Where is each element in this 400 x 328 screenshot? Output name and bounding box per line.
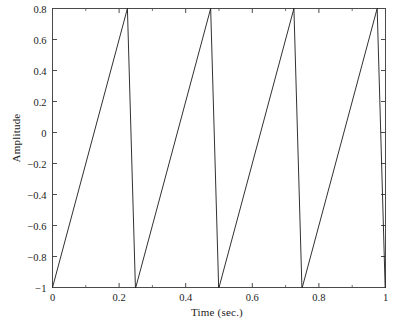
y-tick-label: 0.6 — [33, 34, 46, 45]
x-tick-label: 0.8 — [312, 292, 325, 303]
y-tick-label: −0.8 — [27, 251, 46, 262]
y-tick-label: −0.4 — [27, 189, 46, 200]
x-tick-label: 1 — [383, 292, 388, 303]
series-line — [53, 9, 386, 288]
x-tick-label: 0.4 — [179, 292, 192, 303]
x-tick-label: 0 — [50, 292, 55, 303]
axis-ticks — [53, 9, 386, 288]
y-tick-label: −0.6 — [27, 220, 46, 231]
y-tick-label: 0.8 — [33, 3, 46, 14]
y-tick-label: −0.2 — [27, 158, 46, 169]
x-tick-label: 0.6 — [246, 292, 259, 303]
y-tick-label: 0.2 — [33, 96, 46, 107]
chart-figure: Amplitude Time (sec.) −1−0.8−0.6−0.4−0.2… — [0, 0, 400, 328]
axes-frame — [53, 9, 386, 288]
x-tick-label: 0.2 — [113, 292, 126, 303]
y-tick-label: −1 — [35, 282, 46, 293]
y-tick-label: 0.4 — [33, 65, 46, 76]
y-tick-label: 0 — [41, 127, 46, 138]
plot-canvas — [0, 0, 400, 328]
data-series-group — [53, 9, 386, 288]
